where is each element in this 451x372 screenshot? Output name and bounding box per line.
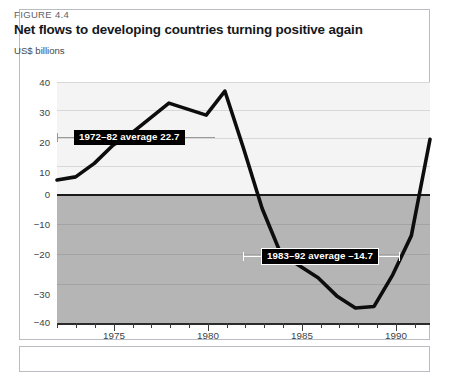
y-tick-label-neg40: −40 xyxy=(34,317,50,328)
x-tick-1973 xyxy=(76,323,77,328)
y-tick-label-10: 10 xyxy=(39,167,50,178)
x-tick-1988 xyxy=(358,323,359,328)
annotation-rule-right xyxy=(185,137,215,138)
annotation-rule-left xyxy=(58,137,74,138)
x-tick-label-1975: 1975 xyxy=(103,330,125,341)
y-tick-label-0: 0 xyxy=(45,189,50,200)
x-tick-label-1985: 1985 xyxy=(291,330,313,341)
plot-area xyxy=(57,82,430,324)
annotation-average-1983-92: 1983–92 average –14.7 xyxy=(243,248,400,265)
annotation-cap-right xyxy=(399,252,400,261)
annotation-label-1983-92: 1983–92 average –14.7 xyxy=(261,248,379,265)
x-tick-1982 xyxy=(245,323,246,328)
x-tick-1981 xyxy=(227,323,228,328)
x-tick-1989 xyxy=(377,323,378,328)
x-axis-line xyxy=(57,323,430,325)
x-tick-1974 xyxy=(95,323,96,328)
x-tick-1972 xyxy=(57,323,58,328)
x-tick-1987 xyxy=(339,323,340,328)
x-tick-label-1980: 1980 xyxy=(197,330,219,341)
figure-note-panel xyxy=(19,346,430,372)
figure-container: FIGURE 4.4 Net flows to developing count… xyxy=(0,0,451,372)
y-tick-label-40: 40 xyxy=(39,77,50,88)
y-tick-label-20: 20 xyxy=(39,137,50,148)
gridline-30 xyxy=(57,110,430,111)
x-tick-1976 xyxy=(133,323,134,328)
x-tick-1983 xyxy=(264,323,265,328)
x-tick-label-1990: 1990 xyxy=(385,330,407,341)
x-tick-1984 xyxy=(283,323,284,328)
y-tick-label-30: 30 xyxy=(39,107,50,118)
gridline-40 xyxy=(57,82,430,83)
x-tick-1986 xyxy=(321,323,322,328)
y-tick-label-neg10: −10 xyxy=(34,219,50,230)
y-tick-label-neg20: −20 xyxy=(34,249,50,260)
zero-axis-line xyxy=(57,194,430,196)
annotation-rule-right xyxy=(379,256,399,257)
gridline-10 xyxy=(57,166,430,167)
annotation-label-1972-82: 1972–82 average 22.7 xyxy=(74,130,185,145)
annotation-rule-left xyxy=(244,256,261,257)
gridline-neg30 xyxy=(57,284,430,285)
x-tick-1979 xyxy=(189,323,190,328)
x-tick-1978 xyxy=(170,323,171,328)
figure-title: Net flows to developing countries turnin… xyxy=(14,22,363,37)
y-tick-label-neg30: −30 xyxy=(34,289,50,300)
x-tick-1991 xyxy=(415,323,416,328)
gridline-neg10 xyxy=(57,224,430,225)
x-tick-1977 xyxy=(151,323,152,328)
annotation-average-1972-82: 1972–82 average 22.7 xyxy=(57,130,215,145)
y-axis: 40 30 20 10 0 −10 −20 −30 −40 xyxy=(0,0,57,372)
